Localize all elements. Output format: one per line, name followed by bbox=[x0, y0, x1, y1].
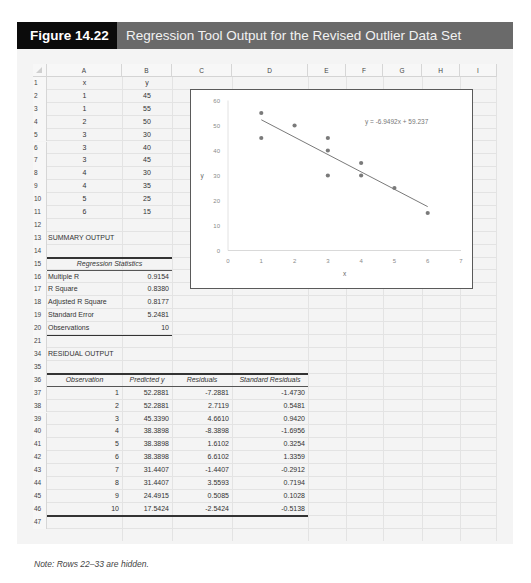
row-number[interactable]: 18 bbox=[33, 296, 47, 309]
residual-cell[interactable]: -2.5424 bbox=[172, 503, 232, 516]
column-header-h[interactable]: H bbox=[422, 64, 460, 77]
observation-cell[interactable]: 7 bbox=[47, 464, 122, 477]
row-number[interactable]: 20 bbox=[33, 322, 47, 335]
row-number[interactable]: 43 bbox=[33, 464, 47, 477]
x-value-cell[interactable]: 3 bbox=[47, 154, 122, 167]
row-number[interactable]: 6 bbox=[33, 142, 47, 155]
residual-cell[interactable]: 0.5085 bbox=[172, 490, 232, 503]
residual-cell[interactable]: -1.4407 bbox=[172, 464, 232, 477]
stat-label-cell[interactable]: Observations bbox=[47, 322, 122, 335]
x-value-cell[interactable]: 1 bbox=[47, 103, 122, 116]
standard-residual-cell[interactable]: -1.4730 bbox=[232, 387, 308, 400]
col-header-residuals[interactable]: Residuals bbox=[172, 374, 232, 387]
predicted-y-cell[interactable]: 38.3898 bbox=[122, 438, 172, 451]
row-number[interactable]: 9 bbox=[33, 180, 47, 193]
column-header-a[interactable]: A bbox=[47, 64, 122, 77]
row-number[interactable]: 21 bbox=[33, 335, 47, 348]
standard-residual-cell[interactable]: 0.5481 bbox=[232, 400, 308, 413]
row-number[interactable]: 39 bbox=[33, 413, 47, 426]
row-number[interactable]: 2 bbox=[33, 90, 47, 103]
stat-value-cell[interactable]: 0.8380 bbox=[122, 283, 172, 296]
residual-cell[interactable]: 4.6610 bbox=[172, 413, 232, 426]
predicted-y-cell[interactable]: 24.4915 bbox=[122, 490, 172, 503]
column-header-d[interactable]: D bbox=[232, 64, 308, 77]
predicted-y-cell[interactable]: 52.2881 bbox=[122, 387, 172, 400]
stat-label-cell[interactable]: Multiple R bbox=[47, 271, 122, 284]
predicted-y-cell[interactable]: 45.3390 bbox=[122, 413, 172, 426]
residual-cell[interactable]: -8.3898 bbox=[172, 425, 232, 438]
observation-cell[interactable]: 6 bbox=[47, 451, 122, 464]
row-number[interactable]: 45 bbox=[33, 490, 47, 503]
residual-cell[interactable]: -7.2881 bbox=[172, 387, 232, 400]
row-number[interactable]: 34 bbox=[33, 348, 47, 361]
x-value-cell[interactable]: 4 bbox=[47, 180, 122, 193]
standard-residual-cell[interactable]: 0.3254 bbox=[232, 438, 308, 451]
stat-value-cell[interactable]: 0.9154 bbox=[122, 271, 172, 284]
residual-output-label[interactable]: RESIDUAL OUTPUT bbox=[47, 348, 172, 361]
header-x-cell[interactable]: x bbox=[47, 77, 122, 90]
x-value-cell[interactable]: 6 bbox=[47, 206, 122, 219]
residual-cell[interactable]: 6.6102 bbox=[172, 451, 232, 464]
observation-cell[interactable]: 2 bbox=[47, 400, 122, 413]
y-value-cell[interactable]: 45 bbox=[122, 154, 172, 167]
y-value-cell[interactable]: 30 bbox=[122, 129, 172, 142]
header-y-cell[interactable]: y bbox=[122, 77, 172, 90]
column-header-g[interactable]: G bbox=[383, 64, 422, 77]
row-number[interactable]: 1 bbox=[33, 77, 47, 90]
residual-cell[interactable]: 3.5593 bbox=[172, 477, 232, 490]
predicted-y-cell[interactable]: 31.4407 bbox=[122, 477, 172, 490]
x-value-cell[interactable]: 3 bbox=[47, 129, 122, 142]
x-value-cell[interactable]: 3 bbox=[47, 142, 122, 155]
col-header-predicted-y[interactable]: Predicted y bbox=[122, 374, 172, 387]
x-value-cell[interactable]: 5 bbox=[47, 193, 122, 206]
regression-statistics-header[interactable]: Regression Statistics bbox=[47, 258, 172, 271]
y-value-cell[interactable]: 35 bbox=[122, 180, 172, 193]
y-value-cell[interactable]: 15 bbox=[122, 206, 172, 219]
x-value-cell[interactable]: 2 bbox=[47, 116, 122, 129]
column-header-e[interactable]: E bbox=[308, 64, 346, 77]
observation-cell[interactable]: 8 bbox=[47, 477, 122, 490]
row-number[interactable]: 8 bbox=[33, 167, 47, 180]
row-number[interactable]: 4 bbox=[33, 116, 47, 129]
observation-cell[interactable]: 10 bbox=[47, 503, 122, 516]
y-value-cell[interactable]: 45 bbox=[122, 90, 172, 103]
predicted-y-cell[interactable]: 31.4407 bbox=[122, 464, 172, 477]
row-number[interactable]: 13 bbox=[33, 232, 47, 245]
stat-label-cell[interactable]: R Square bbox=[47, 283, 122, 296]
stat-value-cell[interactable]: 0.8177 bbox=[122, 296, 172, 309]
col-header-standard-residuals[interactable]: Standard Residuals bbox=[232, 374, 308, 387]
summary-output-label[interactable]: SUMMARY OUTPUT bbox=[47, 232, 172, 245]
row-number[interactable]: 36 bbox=[33, 374, 47, 387]
row-number[interactable]: 10 bbox=[33, 193, 47, 206]
standard-residual-cell[interactable]: 1.3359 bbox=[232, 451, 308, 464]
row-number[interactable]: 3 bbox=[33, 103, 47, 116]
row-number[interactable]: 7 bbox=[33, 154, 47, 167]
predicted-y-cell[interactable]: 52.2881 bbox=[122, 400, 172, 413]
row-number[interactable]: 5 bbox=[33, 129, 47, 142]
observation-cell[interactable]: 5 bbox=[47, 438, 122, 451]
column-header-f[interactable]: F bbox=[346, 64, 383, 77]
observation-cell[interactable]: 1 bbox=[47, 387, 122, 400]
row-number[interactable]: 46 bbox=[33, 503, 47, 516]
stat-label-cell[interactable]: Standard Error bbox=[47, 309, 122, 322]
row-number[interactable]: 16 bbox=[33, 271, 47, 284]
column-header-i[interactable]: I bbox=[460, 64, 497, 77]
column-header-b[interactable]: B bbox=[122, 64, 172, 77]
stat-value-cell[interactable]: 10 bbox=[122, 322, 172, 335]
row-number[interactable]: 38 bbox=[33, 400, 47, 413]
stat-label-cell[interactable]: Adjusted R Square bbox=[47, 296, 122, 309]
predicted-y-cell[interactable]: 38.3898 bbox=[122, 425, 172, 438]
row-number[interactable]: 44 bbox=[33, 477, 47, 490]
row-number[interactable]: 11 bbox=[33, 206, 47, 219]
y-value-cell[interactable]: 40 bbox=[122, 142, 172, 155]
y-value-cell[interactable]: 55 bbox=[122, 103, 172, 116]
standard-residual-cell[interactable]: 0.7194 bbox=[232, 477, 308, 490]
predicted-y-cell[interactable]: 17.5424 bbox=[122, 503, 172, 516]
x-value-cell[interactable]: 4 bbox=[47, 167, 122, 180]
row-number[interactable]: 40 bbox=[33, 425, 47, 438]
residual-cell[interactable]: 1.6102 bbox=[172, 438, 232, 451]
select-all-corner[interactable] bbox=[33, 64, 47, 77]
row-number[interactable]: 35 bbox=[33, 361, 47, 374]
row-number[interactable]: 19 bbox=[33, 309, 47, 322]
x-value-cell[interactable]: 1 bbox=[47, 90, 122, 103]
